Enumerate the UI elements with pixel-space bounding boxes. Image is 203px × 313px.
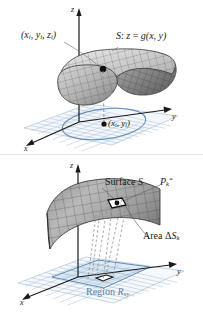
area-k-subscript: k <box>176 234 179 241</box>
paren-close: ) <box>53 29 56 40</box>
star-superscript: * <box>169 176 173 184</box>
function-args: (x, y) <box>146 30 167 41</box>
region-xy-subscript: xy <box>124 290 130 297</box>
figure-surface-patch: Surface S Pk* Area ΔSk Region Rxy z y x <box>0 155 203 313</box>
axis-label-x-bottom: x <box>20 299 24 307</box>
label-point-xy: (xi, yi) <box>108 119 130 128</box>
region-word: Region <box>86 286 115 297</box>
figure-saddle-surface: (xi, yi, zi) S: z = g(x, y) (xi, yi) z y… <box>0 0 203 155</box>
axis-label-z-bottom: z <box>70 162 73 170</box>
axis-label-z-top: z <box>71 6 74 14</box>
label-surface-s: Surface S <box>105 177 143 187</box>
label-region-rxy: Region Rxy <box>86 287 130 298</box>
figure-top-canvas <box>0 0 203 155</box>
label-point-xyz: (xi, yi, zi) <box>21 30 56 41</box>
paren-close-2d: ) <box>127 118 130 128</box>
axis-label-y-top: y <box>172 113 176 121</box>
surface-word: Surface <box>105 176 136 187</box>
axis-label-y-bottom: y <box>177 268 181 276</box>
area-word: Area <box>143 230 162 241</box>
label-area-delta-sk: Area ΔSk <box>143 231 179 242</box>
equals-sign: = <box>130 30 141 41</box>
axis-label-x-top: x <box>24 145 28 153</box>
surface-patch-point <box>115 201 120 206</box>
label-pk-star: Pk* <box>160 177 173 188</box>
saddle-surface <box>50 42 190 113</box>
surface-s-letter: S <box>138 176 143 187</box>
plane-sample-point <box>101 121 106 126</box>
label-surface-equation: S: z = g(x, y) <box>116 31 166 41</box>
